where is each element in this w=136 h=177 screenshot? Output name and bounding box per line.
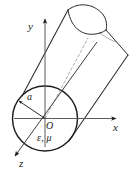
radius-arrow <box>19 101 45 119</box>
x-axis-label: x <box>113 122 118 133</box>
z-axis-label: z <box>19 158 23 169</box>
radius-label: a <box>27 92 32 102</box>
cylinder-coordinate-figure: y x z O a ε, μ <box>0 0 136 177</box>
y-axis-label: y <box>28 21 33 32</box>
material-parameters-label: ε, μ <box>37 133 52 143</box>
origin-label: O <box>46 121 53 131</box>
figure-drawing <box>0 0 136 177</box>
cylinder-axis-dashed <box>45 38 88 119</box>
